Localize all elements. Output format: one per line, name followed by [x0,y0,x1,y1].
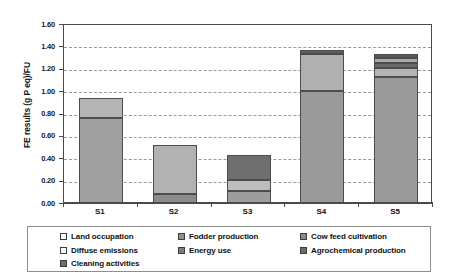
legend-item[interactable]: Energy use [178,244,258,258]
legend-swatch-icon [60,260,67,267]
bar-segment[interactable] [227,155,271,180]
legend-item[interactable]: Agrochemical production [300,244,406,258]
y-axis-tick-label: 1.00 [25,87,55,96]
bar-segment[interactable] [79,118,123,203]
bar-segment[interactable] [227,180,271,191]
y-axis-tick-label: 0.20 [25,176,55,185]
x-axis-label-s2: S2 [134,207,214,216]
legend-label: Fodder production [189,232,258,241]
y-axis-tick-label: 0.80 [25,109,55,118]
bar-group-s4[interactable] [300,24,344,203]
bar-segment[interactable] [374,77,418,203]
legend-item[interactable]: Fodder production [178,230,258,244]
bar-stack [374,54,418,203]
legend-column-1: Land occupationDiffuse emissionsCleaning… [60,230,139,271]
legend-label: Land occupation [71,232,134,241]
legend-swatch-icon [300,247,307,254]
legend-swatch-icon [178,247,185,254]
legend-swatch-icon [60,247,67,254]
legend-column-2: Fodder productionEnergy use [178,230,258,257]
y-axis-tick-label: 1.20 [25,64,55,73]
bar-stack [227,155,271,203]
legend-label: Cow feed cultivation [311,232,387,241]
x-axis-label-s1: S1 [60,207,140,216]
y-axis-tick-label: 0.40 [25,154,55,163]
x-axis-tick-mark [432,202,433,207]
y-axis-tick-label: 1.60 [25,20,55,29]
legend-swatch-icon [178,233,185,240]
x-axis-label-s5: S5 [355,207,435,216]
x-axis-line [63,202,433,204]
bar-group-s2[interactable] [153,24,197,203]
legend-swatch-icon [60,233,67,240]
y-axis-tick-label: 0.00 [25,199,55,208]
x-axis-label-s3: S3 [208,207,288,216]
bar-segment[interactable] [374,68,418,77]
legend-item[interactable]: Cleaning activities [60,257,139,271]
legend-swatch-icon [300,233,307,240]
legend-label: Diffuse emissions [71,246,138,255]
bar-segment[interactable] [79,98,123,118]
bar-stack [79,98,123,203]
y-axis-tick-label: 0.60 [25,131,55,140]
legend-label: Cleaning activities [71,259,139,268]
x-axis-label-s4: S4 [281,207,361,216]
legend-item[interactable]: Land occupation [60,230,139,244]
legend-item[interactable]: Diffuse emissions [60,244,139,258]
plot-area [63,24,432,203]
bar-stack [153,145,197,203]
bar-segment[interactable] [153,145,197,194]
bar-stack [300,50,344,203]
bar-segment[interactable] [300,91,344,203]
bar-group-s5[interactable] [374,24,418,203]
legend-item[interactable]: Cow feed cultivation [300,230,406,244]
legend-label: Energy use [189,246,231,255]
bar-segment[interactable] [300,54,344,91]
chart-legend: Land occupationDiffuse emissionsCleaning… [27,226,431,272]
bar-group-s1[interactable] [79,24,123,203]
chart-container: FE results (g P eq)/FU 0.000.200.400.600… [0,0,455,278]
y-axis-tick-label: 1.40 [25,42,55,51]
bar-group-s3[interactable] [227,24,271,203]
legend-label: Agrochemical production [311,246,406,255]
legend-column-3: Cow feed cultivationAgrochemical product… [300,230,406,257]
